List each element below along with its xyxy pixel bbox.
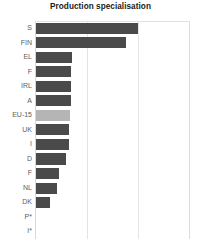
category-label-nl: NL (0, 181, 32, 196)
bar-fin (36, 37, 126, 48)
bar-row: F (0, 166, 201, 181)
bar-s (36, 23, 138, 34)
bar-d (36, 153, 66, 164)
bar-a (36, 95, 71, 106)
bar-el (36, 52, 72, 63)
bar-dk (36, 197, 50, 208)
category-label-a: A (0, 94, 32, 109)
bar-row: IRL (0, 79, 201, 94)
category-label-dk: DK (0, 195, 32, 210)
bar-row: S (0, 21, 201, 36)
bar-nl (36, 183, 57, 194)
bar-row: EU-15 (0, 108, 201, 123)
bar-row: UK (0, 123, 201, 138)
category-label-f: F (0, 166, 32, 181)
chart-title: Production specialisation (0, 2, 201, 12)
bar-f (36, 66, 71, 77)
bar-irl (36, 81, 71, 92)
category-label-eu-15: EU-15 (0, 108, 32, 123)
category-label-fin: FIN (0, 36, 32, 51)
category-label-s: S (0, 21, 32, 36)
category-label-f: F (0, 65, 32, 80)
category-label-uk: UK (0, 123, 32, 138)
bar-row: EL (0, 50, 201, 65)
category-label-i: I (0, 137, 32, 152)
category-label-p-: P* (0, 210, 32, 225)
category-label-el: EL (0, 50, 32, 65)
category-label-i-: I* (0, 224, 32, 239)
bar-row: F (0, 65, 201, 80)
bar-row: P* (0, 210, 201, 225)
bar-row: FIN (0, 36, 201, 51)
bar-i (36, 139, 69, 150)
bar-row: NL (0, 181, 201, 196)
category-label-d: D (0, 152, 32, 167)
category-label-irl: IRL (0, 79, 32, 94)
bar-row: A (0, 94, 201, 109)
bar-rows: SFINELFIRLAEU-15UKIDFNLDKP*I* (0, 21, 201, 239)
bar-f (36, 168, 59, 179)
bar-row: I (0, 137, 201, 152)
bar-row: D (0, 152, 201, 167)
bar-uk (36, 124, 69, 135)
chart-figure: Production specialisation SFINELFIRLAEU-… (0, 0, 201, 239)
bar-row: DK (0, 195, 201, 210)
bar-eu-15 (36, 110, 70, 121)
bar-row: I* (0, 224, 201, 239)
